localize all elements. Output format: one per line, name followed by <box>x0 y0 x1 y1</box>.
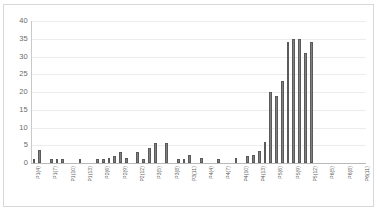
bar <box>287 42 290 163</box>
y-axis-tick-label: 30 <box>6 53 28 61</box>
x-axis-tick-label: P4(13) <box>261 166 266 182</box>
x-axis-tick-label: P6(5) <box>330 166 335 179</box>
bar <box>188 155 191 163</box>
x-axis-tick-label: P1(4) <box>36 166 41 179</box>
y-axis-tick-label: 0 <box>6 159 28 167</box>
bar <box>113 156 116 163</box>
bar <box>298 39 301 163</box>
y-axis-tick-label: 10 <box>6 124 28 132</box>
bar <box>258 151 261 163</box>
x-axis-tick-label: P5(9) <box>296 166 301 179</box>
y-axis-tick-label: 5 <box>6 141 28 149</box>
bar <box>33 159 36 163</box>
x-axis-tick-label: P4(7) <box>226 166 231 179</box>
x-axis-tick-label: P5(12) <box>313 166 318 182</box>
bar <box>136 152 139 163</box>
bar <box>38 150 41 163</box>
y-axis-tick-label: 40 <box>6 17 28 25</box>
bar <box>292 39 295 163</box>
bar <box>108 158 111 163</box>
x-axis-tick-label: P4(4) <box>209 166 214 179</box>
bar <box>119 152 122 163</box>
y-axis-tick-label: 20 <box>6 88 28 96</box>
bar <box>275 96 278 163</box>
bar <box>61 159 64 163</box>
bar <box>246 156 249 163</box>
bar <box>102 159 105 163</box>
bar <box>269 92 272 163</box>
x-axis-tick-label: P1(10) <box>71 166 76 182</box>
plot-area <box>31 21 366 163</box>
x-axis-tick-label: P4(10) <box>244 166 249 182</box>
bar-chart-figure: 0510152025303540 P1(4)P1(7)P1(10)P1(13)P… <box>0 0 377 211</box>
bar <box>165 143 168 163</box>
x-axis-tick-label: P6(8) <box>348 166 353 179</box>
y-axis-tick-label: 25 <box>6 70 28 78</box>
bar <box>154 143 157 163</box>
bar <box>281 81 284 163</box>
x-axis-tick-label: P3(8) <box>175 166 180 179</box>
bar <box>310 42 313 163</box>
x-axis-tick-label: P2(9) <box>123 166 128 179</box>
bar <box>96 159 99 163</box>
bar <box>50 159 53 163</box>
bar <box>235 158 238 163</box>
x-axis-line <box>31 163 366 164</box>
x-axis-tick-label: P6(11) <box>365 166 370 181</box>
bar <box>177 159 180 163</box>
x-axis-tick-label: P1(13) <box>88 166 93 182</box>
x-axis-tick-labels: P1(4)P1(7)P1(10)P1(13)P2(6)P2(9)P2(12)P3… <box>31 166 366 208</box>
x-axis-tick-label: P3(11) <box>192 166 197 181</box>
bar <box>252 155 255 163</box>
bar <box>125 158 128 163</box>
x-axis-tick-label: P3(5) <box>157 166 162 179</box>
x-axis-tick-label: P1(7) <box>53 166 58 179</box>
bar <box>264 142 267 163</box>
bar <box>217 159 220 163</box>
bar <box>142 159 145 163</box>
y-axis-tick-label: 35 <box>6 35 28 43</box>
x-axis-tick-label: P2(6) <box>105 166 110 179</box>
bar <box>56 159 59 163</box>
bar <box>148 148 151 163</box>
x-axis-tick-label: P5(6) <box>278 166 283 179</box>
bar <box>304 53 307 163</box>
bar <box>79 159 82 163</box>
bar <box>183 159 186 163</box>
x-axis-tick-label: P2(12) <box>140 166 145 182</box>
y-axis-tick-label: 15 <box>6 106 28 114</box>
bar <box>200 158 203 163</box>
